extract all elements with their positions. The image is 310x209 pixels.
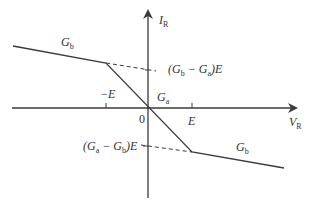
left-slope-label: Gb (61, 36, 74, 51)
origin-label: 0 (139, 113, 145, 125)
x-axis-label: VR (289, 116, 302, 131)
right-slope-label: Gb (236, 141, 249, 156)
right-slope-main: G (236, 140, 245, 154)
lower-minus: − G (99, 139, 122, 153)
neg-E-label: −E (100, 88, 115, 100)
lower-close: )E (126, 139, 137, 153)
upper-minus: − G (185, 62, 208, 76)
pos-E-label: E (188, 115, 195, 127)
x-axis-label-sub: R (296, 122, 301, 131)
iv-characteristic-diagram (0, 0, 310, 209)
left-slope-sub: b (70, 42, 74, 51)
upper-close: )E (211, 62, 222, 76)
right-slope-sub: b (245, 147, 249, 156)
lower-open: (G (83, 139, 96, 153)
y-axis-label: IR (159, 14, 168, 29)
lower-intercept-label: (Ga − Gb)E (83, 140, 137, 155)
middle-slope-sub: a (166, 97, 170, 106)
middle-slope-main: G (157, 90, 166, 104)
upper-intercept-label: (Gb − Ga)E (168, 63, 222, 78)
left-slope-main: G (61, 35, 70, 49)
middle-slope-label: Ga (157, 91, 169, 106)
y-axis-label-sub: R (163, 20, 168, 29)
upper-open: (G (168, 62, 181, 76)
